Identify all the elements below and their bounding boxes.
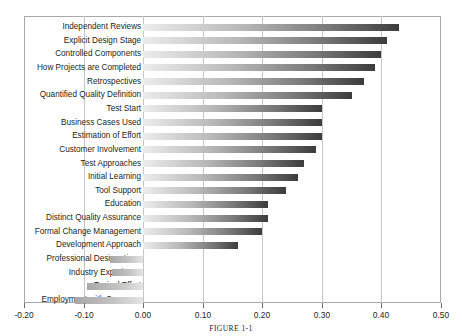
bar-row[interactable]: Tool Support [0,184,462,198]
bar-row[interactable]: Distinct Quality Assurance [0,211,462,225]
bar-label: Controlled Components [0,47,141,61]
x-tick-label: -0.10 [61,310,107,321]
x-tick-mark [24,303,25,308]
bar-row[interactable]: Customer Involvement [0,143,462,157]
bar-label: Customer Involvement [0,143,141,157]
bar[interactable] [143,37,387,44]
bar-row[interactable]: How Projects are Completed [0,61,462,75]
bar-row[interactable]: Development Approach [0,238,462,252]
bar-row[interactable]: Education [0,197,462,211]
bar-row[interactable]: Independent Reviews [0,20,462,34]
x-tick-mark [143,303,144,308]
bar-label: Test Start [0,102,141,116]
bar-row[interactable]: Industry Experience [0,266,462,280]
bar[interactable] [143,201,268,208]
bar-label: Tool Support [0,184,141,198]
x-tick-mark [84,303,85,308]
bar[interactable] [143,24,399,31]
bar[interactable] [143,146,316,153]
bar-row[interactable]: Controlled Components [0,47,462,61]
bar-label: Independent Reviews [0,20,141,34]
bar[interactable] [143,133,322,140]
bar-row[interactable]: Retrospectives [0,75,462,89]
bar-label: Quantified Quality Definition [0,88,141,102]
bar-row[interactable]: Test Approaches [0,157,462,171]
x-tick-label: 0.50 [418,310,462,321]
bar-label: How Projects are Completed [0,61,141,75]
bar[interactable] [143,119,322,126]
bar-label: Test Approaches [0,157,141,171]
bar[interactable] [110,256,143,263]
bar[interactable] [143,51,381,58]
bar-label: Estimation of Effort [0,129,141,143]
bar-row[interactable]: Formal Change Management [0,225,462,239]
x-tick-mark [322,303,323,308]
x-tick-mark [262,303,263,308]
x-tick-label: -0.20 [1,310,47,321]
bar[interactable] [143,215,268,222]
bar-row[interactable]: Initial Learning [0,170,462,184]
bar-label: Business Cases Used [0,116,141,130]
bar-row[interactable]: Typical Effort [0,279,462,293]
bar[interactable] [143,78,363,85]
bar-label: Retrospectives [0,75,141,89]
figure-container: Independent ReviewsExplicit Design Stage… [0,0,462,336]
bar[interactable] [112,269,143,276]
bar[interactable] [143,242,238,249]
bar-row[interactable]: Explicit Design Stage [0,34,462,48]
x-tick-label: 0.00 [120,310,166,321]
x-tick-mark [441,303,442,308]
bar-label: Education [0,197,141,211]
x-tick-label: 0.20 [239,310,285,321]
bar-row[interactable]: Business Cases Used [0,116,462,130]
bar[interactable] [143,92,352,99]
bar-label: Initial Learning [0,170,141,184]
bar-label: Formal Change Management [0,225,141,239]
bar[interactable] [143,160,304,167]
x-tick-mark [203,303,204,308]
bar[interactable] [143,105,322,112]
bar-row[interactable]: Test Start [0,102,462,116]
x-tick-label: 0.40 [358,310,404,321]
bar-rows: Independent ReviewsExplicit Design Stage… [0,0,462,336]
bar-label: Explicit Design Stage [0,34,141,48]
figure-caption: FIGURE 1-1 [0,324,462,333]
bar[interactable] [143,64,375,71]
bar-label: Distinct Quality Assurance [0,211,141,225]
bar-row[interactable]: Professional Designations [0,252,462,266]
bar[interactable] [143,187,286,194]
bar-row[interactable]: Estimation of Effort [0,129,462,143]
x-tick-label: 0.10 [180,310,226,321]
bar[interactable] [143,228,262,235]
x-tick-mark [381,303,382,308]
bar-row[interactable]: Quantified Quality Definition [0,88,462,102]
bar[interactable] [87,283,144,290]
bar-label: Development Approach [0,238,141,252]
bar[interactable] [143,174,298,181]
x-tick-label: 0.30 [299,310,345,321]
